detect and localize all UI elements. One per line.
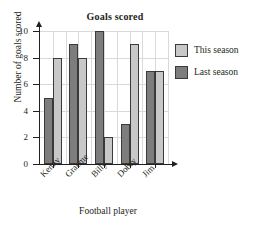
bar-billy-last-season — [95, 31, 104, 164]
y-tick-label-2: 2 — [0, 133, 28, 142]
plot-area — [40, 31, 168, 164]
gridline-vertical — [91, 31, 92, 164]
y-axis-line — [39, 26, 40, 165]
bar-jim-this-season — [155, 71, 164, 164]
y-tick-mark — [33, 137, 39, 138]
bar-graeme-last-season — [69, 44, 78, 164]
legend-swatch-icon-this-season — [175, 44, 188, 57]
y-tick-mark — [33, 58, 39, 59]
y-tick-mark — [33, 84, 39, 85]
y-tick-label-0: 0 — [0, 160, 28, 169]
x-axis-title: Football player — [38, 206, 178, 216]
gridline-vertical — [168, 31, 169, 164]
x-tick-label-jim: Jim — [140, 163, 156, 179]
bar-billy-this-season — [104, 137, 113, 164]
legend-label-last-season: Last season — [194, 66, 238, 79]
legend-swatch-icon-last-season — [175, 66, 188, 79]
x-tick-mark — [155, 164, 156, 168]
y-tick-mark — [33, 111, 39, 112]
x-axis-arrow-icon — [172, 161, 178, 167]
bar-kenny-last-season — [44, 98, 53, 165]
bar-jim-last-season — [146, 71, 155, 164]
gridline-vertical — [142, 31, 143, 164]
y-tick-mark — [33, 31, 39, 32]
gridline-vertical — [66, 31, 67, 164]
bar-kenny-this-season — [53, 58, 62, 164]
bar-dobry-this-season — [130, 44, 139, 164]
legend-label-this-season: This season — [194, 44, 239, 57]
bar-graeme-this-season — [78, 58, 87, 164]
gridline-vertical — [117, 31, 118, 164]
bar-chart: Goals scored 0 2 4 6 8 10 Number of goal… — [0, 0, 255, 225]
y-axis-title: Number of goals scored — [13, 0, 23, 127]
chart-title: Goals scored — [55, 11, 175, 22]
y-tick-mark — [33, 164, 39, 165]
y-axis-arrow-icon — [36, 21, 42, 27]
